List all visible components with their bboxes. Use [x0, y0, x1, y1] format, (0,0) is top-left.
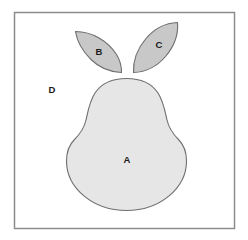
- diagram-root: A B C D: [0, 0, 248, 240]
- pear-diagram-figure: A B C D: [0, 0, 248, 240]
- region-label-c: C: [156, 39, 163, 50]
- region-label-b: B: [96, 46, 103, 57]
- region-label-d: D: [49, 84, 56, 95]
- region-label-a: A: [124, 154, 131, 165]
